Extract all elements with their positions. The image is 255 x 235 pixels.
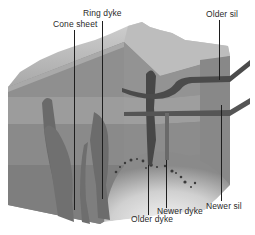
newer-sil-leader <box>221 105 222 201</box>
label-cone-sheet: Cone sheet <box>53 20 97 29</box>
label-older-sil: Older sil <box>206 10 238 19</box>
older-sil-leader <box>219 20 220 80</box>
block-diagram-graphic <box>0 0 255 235</box>
newer-dyke-leader <box>166 160 167 208</box>
label-older-dyke: Older dyke <box>131 215 173 224</box>
label-newer-sil: Newer sil <box>206 202 242 211</box>
newer-dyke-intrusion <box>165 113 169 160</box>
cone-sheet-leader <box>74 30 75 210</box>
ring-dyke-leader <box>102 21 103 199</box>
intrusions-diagram: Cone sheet Ring dyke Older sil Newer sil… <box>0 0 255 235</box>
older-dyke-leader <box>148 165 149 215</box>
label-ring-dyke: Ring dyke <box>83 9 122 18</box>
